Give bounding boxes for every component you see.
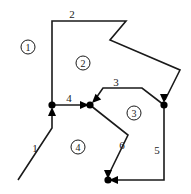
region-label-2: 2 [76, 56, 91, 71]
diagram-graphics [0, 0, 191, 194]
region-label-4: 4 [71, 140, 86, 155]
edge-path-3 [94, 88, 164, 105]
edge-label-2: 2 [69, 9, 75, 20]
edge-label-3: 3 [113, 77, 119, 88]
node-bottom-junction [104, 176, 111, 183]
edge-label-5: 5 [154, 145, 160, 156]
diagram-canvas: 1 2 3 4 5 6 1 2 3 4 [0, 0, 191, 194]
region-label-3: 3 [127, 106, 142, 121]
node-left-junction [48, 101, 55, 108]
node-center-junction [86, 101, 93, 108]
node-right-junction [160, 101, 167, 108]
edge-label-4: 4 [66, 93, 72, 104]
edge-label-6: 6 [119, 140, 125, 151]
region-label-1: 1 [21, 40, 36, 55]
edge-label-1: 1 [32, 143, 38, 154]
